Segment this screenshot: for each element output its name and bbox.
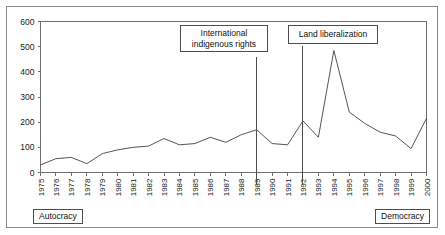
x-tick-label: 1994 [330,178,339,196]
y-tick-label: 400 [20,67,34,77]
x-tick-label: 1982 [145,178,154,196]
x-tick-label: 1996 [361,178,370,196]
x-tick-label: 1977 [67,178,76,196]
x-tick-label: 1979 [98,178,107,196]
x-tick-label: 1993 [314,178,323,196]
annotation-line-1: Land liberalization [293,29,373,40]
x-tick-label: 1985 [191,178,200,196]
x-tick-label: 1997 [376,178,385,196]
y-tick-label: 500 [20,42,34,52]
annotation-international-indigenous-rights: International indigenous rights [180,25,268,52]
data-series-group [41,50,427,165]
regime-label-autocracy: Autocracy [33,209,83,224]
y-tick-label: 300 [20,92,34,102]
x-tick-label: 1999 [407,178,416,196]
y-tick-label: 600 [20,17,34,27]
regime-label-democracy: Democracy [375,209,430,224]
x-tick-label: 1987 [222,178,231,196]
x-tick-label: 1995 [345,178,354,196]
data-series-line [41,50,427,165]
x-axis: 1975197619771978197919801981198219831984… [37,173,432,197]
event-marker-lines [257,46,303,185]
x-tick-label: 1983 [160,178,169,196]
y-tick-label: 200 [20,117,34,127]
y-tick-label: 100 [20,142,34,152]
annotation-line-2: indigenous rights [185,39,263,50]
x-tick-label: 2000 [423,178,432,196]
x-tick-label: 1984 [175,178,184,196]
x-tick-label: 1990 [268,178,277,196]
annotation-land-liberalization: Land liberalization [288,25,378,44]
x-tick-label: 1980 [114,178,123,196]
x-tick-label: 1976 [52,178,61,196]
x-tick-label: 1978 [83,178,92,196]
x-tick-label: 1991 [284,178,293,196]
y-tick-label: 0 [30,168,35,178]
x-tick-label: 1998 [392,178,401,196]
x-tick-label: 1981 [129,178,138,196]
x-tick-label: 1988 [237,178,246,196]
x-tick-label: 1986 [206,178,215,196]
x-tick-label: 1975 [37,178,46,196]
chart-figure: 0100200300400500600 19751976197719781979… [0,0,445,235]
annotation-line-1: International [185,28,263,39]
